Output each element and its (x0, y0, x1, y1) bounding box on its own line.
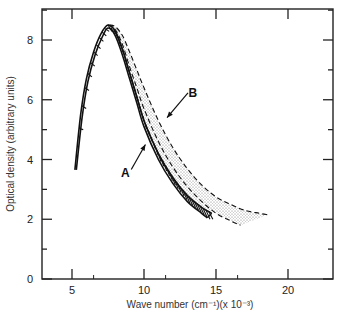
x-tick-label: 20 (282, 284, 294, 296)
y-tick-label: 8 (27, 34, 33, 46)
band-b-stipple (109, 25, 267, 225)
x-tick-label: 15 (210, 284, 222, 296)
annotation-label-b: B (189, 86, 198, 100)
x-axis-label: Wave number (cm⁻¹)(x 10⁻³) (127, 299, 254, 310)
axis-ticks (42, 9, 333, 279)
y-tick-label: 4 (27, 154, 33, 166)
y-tick-label: 0 (27, 273, 33, 285)
x-tick-label: 10 (138, 284, 150, 296)
axes-frame (42, 9, 333, 279)
annotation-label-a: A (121, 166, 130, 180)
chart: 510152002468 Wave number (cm⁻¹)(x 10⁻³) … (0, 0, 339, 316)
plot-area (75, 25, 268, 225)
y-tick-label: 6 (27, 94, 33, 106)
y-axis-label: Optical density (arbitrary units) (5, 76, 16, 212)
y-tick-label: 2 (27, 213, 33, 225)
x-tick-label: 5 (69, 284, 75, 296)
